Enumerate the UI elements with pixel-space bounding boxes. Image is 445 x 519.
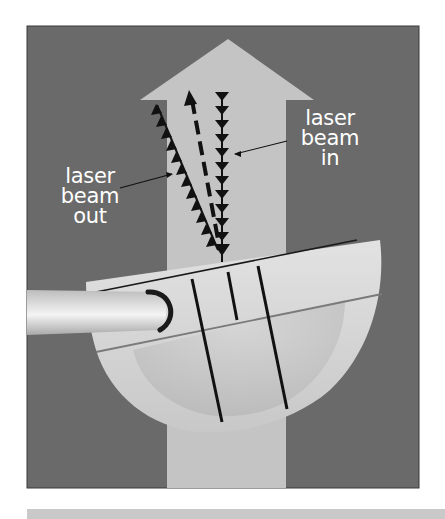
label-in-line2: beam: [290, 128, 370, 148]
label-out-line2: beam: [50, 186, 130, 206]
label-laser-beam-out: laser beam out: [50, 166, 130, 226]
label-out-line1: laser: [50, 166, 130, 186]
label-laser-beam-in: laser beam in: [290, 108, 370, 168]
label-in-line1: laser: [290, 108, 370, 128]
bottom-divider-bar: [27, 509, 445, 519]
label-in-line3: in: [290, 148, 370, 168]
putter-shaft: [27, 290, 166, 335]
putter-laser-diagram: [0, 0, 445, 519]
label-out-line3: out: [50, 206, 130, 226]
